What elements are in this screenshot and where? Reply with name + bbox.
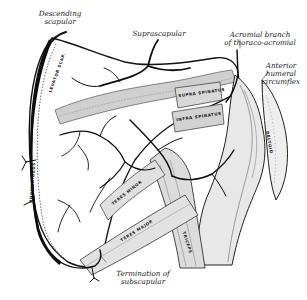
label-suprascapular: Suprascapular	[124, 30, 194, 38]
label-descending-scapular: Descending scapular	[28, 10, 92, 26]
label-anterior-humeral-circumflex: Anterior humeral circumflex	[256, 62, 306, 86]
label-line: scapular	[28, 18, 92, 26]
label-acromial-branch: Acromial branch of thoraco-acromial	[214, 31, 306, 47]
label-line: subscapular	[108, 278, 178, 286]
label-line: circumflex	[256, 78, 306, 86]
label-termination-subscapular: Termination of subscapular	[108, 270, 178, 286]
label-line: Suprascapular	[124, 30, 194, 38]
label-line: of thoraco-acromial	[214, 39, 306, 47]
